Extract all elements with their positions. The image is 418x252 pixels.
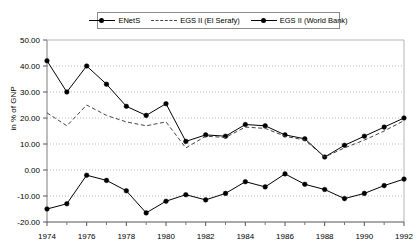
data-point xyxy=(362,191,367,196)
data-point xyxy=(382,125,387,130)
data-point xyxy=(144,113,149,118)
x-tick-label: 1978 xyxy=(117,232,135,241)
data-point xyxy=(65,90,70,95)
data-point xyxy=(322,187,327,192)
y-tick-label: 20.00 xyxy=(20,114,41,123)
y-tick-label: 50.00 xyxy=(20,36,41,45)
x-tick-label: 1986 xyxy=(276,232,294,241)
y-tick-label: 30.00 xyxy=(20,88,41,97)
x-tick-label: 1976 xyxy=(78,232,96,241)
data-point xyxy=(124,104,129,109)
y-tick-label: 10.00 xyxy=(20,140,41,149)
y-axis-label: in % of GNP xyxy=(9,74,18,144)
data-point xyxy=(124,189,129,194)
x-tick-label: 1980 xyxy=(157,232,175,241)
chart-container: ENetS EGS II (El Serafy) EGS II (World B… xyxy=(0,0,418,252)
data-point xyxy=(84,173,89,178)
series-line-0 xyxy=(47,61,404,157)
data-point xyxy=(263,185,268,190)
data-point xyxy=(243,179,248,184)
data-point xyxy=(45,207,50,212)
x-tick-label: 1988 xyxy=(316,232,334,241)
data-point xyxy=(223,191,228,196)
x-tick-label: 1990 xyxy=(355,232,373,241)
data-point xyxy=(104,82,109,87)
y-tick-label: 40.00 xyxy=(20,62,41,71)
data-point xyxy=(263,124,268,129)
data-point xyxy=(144,211,149,216)
data-point xyxy=(342,196,347,201)
x-tick-label: 1984 xyxy=(236,232,254,241)
plot-svg: 50.0040.0030.0020.0010.000.00-10.00-20.0… xyxy=(0,0,418,252)
data-point xyxy=(402,116,407,121)
y-tick-label: -20.00 xyxy=(17,218,40,227)
data-point xyxy=(164,101,169,106)
data-point xyxy=(382,183,387,188)
data-point xyxy=(184,192,189,197)
data-point xyxy=(45,59,50,64)
data-point xyxy=(184,139,189,144)
data-point xyxy=(164,199,169,204)
series-line-1 xyxy=(47,105,404,157)
y-tick-label: 0.00 xyxy=(24,166,40,175)
data-point xyxy=(362,134,367,139)
data-point xyxy=(65,202,70,207)
data-point xyxy=(243,122,248,127)
data-point xyxy=(84,64,89,69)
x-tick-label: 1974 xyxy=(38,232,56,241)
x-tick-label: 1992 xyxy=(395,232,413,241)
x-tick-label: 1982 xyxy=(197,232,215,241)
data-point xyxy=(303,182,308,187)
plot-area: 50.0040.0030.0020.0010.000.00-10.00-20.0… xyxy=(0,0,418,252)
y-tick-label: -10.00 xyxy=(17,192,40,201)
data-point xyxy=(203,198,208,203)
data-point xyxy=(283,172,288,177)
data-point xyxy=(402,177,407,182)
data-point xyxy=(104,178,109,183)
